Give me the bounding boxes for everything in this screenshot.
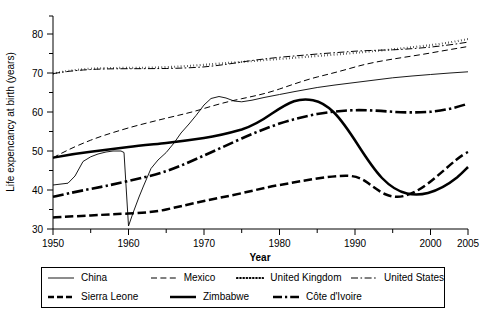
chart-legend: China Mexico United Kingdom [41,267,445,308]
y-tick-label: 40 [32,185,44,196]
x-axis-minor-ticks [91,229,393,233]
legend-entry-mexico[interactable]: Mexico [150,272,237,284]
legend-label-china: China [81,272,107,283]
series-line-cote-divoire [53,104,468,197]
legend-entry-sierra-leone[interactable]: Sierra Leone [47,291,169,303]
series-line-united-kingdom [53,39,468,74]
y-axis-title: Life expencancy at birth (years) [5,52,16,192]
legend-swatch-dashdot-thick-icon [272,291,300,303]
legend-label-cote-divoire: Côte d'Ivoire [306,291,362,302]
x-tick-label: 1970 [193,238,216,249]
y-tick-label: 80 [32,29,44,40]
x-axis-ticks: 1950 1960 1970 1980 1990 2000 2005 [42,229,480,249]
x-tick-label: 1960 [117,238,140,249]
x-tick-label: 1980 [268,238,291,249]
x-axis-title: Year [249,252,270,262]
legend-label-united-kingdom: United Kingdom [270,272,341,283]
legend-label-united-states: United States [384,272,444,283]
y-tick-label: 70 [32,68,44,79]
x-tick-label: 1950 [42,238,65,249]
legend-row-2: Sierra Leone Zimbabwe Côte d'Ivoire [42,287,444,306]
legend-entry-united-states[interactable]: United States [350,272,444,284]
x-tick-label: 2005 [457,238,480,249]
legend-entry-united-kingdom[interactable]: United Kingdom [236,272,350,284]
y-tick-label: 60 [32,107,44,118]
legend-label-sierra-leone: Sierra Leone [81,291,138,302]
legend-entry-cote-divoire[interactable]: Côte d'Ivoire [272,291,362,303]
legend-entry-zimbabwe[interactable]: Zimbabwe [169,291,272,303]
legend-swatch-solid-thin-icon [47,272,75,284]
y-tick-label: 30 [32,224,44,235]
series-line-united-states [53,42,468,74]
series-line-zimbabwe [53,100,468,195]
life-expectancy-chart-figure: 80 70 60 50 40 30 [0,0,487,319]
legend-swatch-dashed-thin-icon [150,272,178,284]
legend-label-zimbabwe: Zimbabwe [203,291,249,302]
legend-swatch-dashdot-thin-icon [350,272,378,284]
legend-swatch-dashed-thick-icon [47,291,75,303]
y-axis-minor-ticks [49,16,53,210]
legend-swatch-solid-thick-icon [169,291,197,303]
legend-label-mexico: Mexico [184,272,216,283]
line-chart-svg: 80 70 60 50 40 30 [0,0,487,262]
legend-row-1: China Mexico United Kingdom [42,268,444,287]
chart-plot-area: 80 70 60 50 40 30 [0,0,487,262]
x-tick-label: 2000 [419,238,442,249]
legend-entry-china[interactable]: China [47,272,150,284]
legend-swatch-dotted-thick-icon [236,272,264,284]
y-tick-label: 50 [32,146,44,157]
series-line-mexico [53,47,468,158]
x-tick-label: 1990 [344,238,367,249]
